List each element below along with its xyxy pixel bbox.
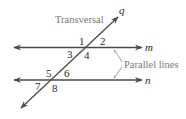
angle-label-2: 2 xyxy=(100,35,106,47)
line-label-m: m xyxy=(145,41,153,53)
transversal-line-q xyxy=(21,17,118,108)
transversal-caption: Transversal xyxy=(55,14,104,25)
line-label-q: q xyxy=(119,4,125,16)
angle-label-1: 1 xyxy=(79,35,85,47)
pointer-to-m xyxy=(114,50,122,62)
angle-label-6: 6 xyxy=(64,67,70,79)
angle-label-7: 7 xyxy=(35,80,41,92)
line-label-n: n xyxy=(145,74,151,86)
angle-label-4: 4 xyxy=(84,49,90,61)
angle-label-3: 3 xyxy=(67,48,73,60)
parallel-lines-caption: Parallel lines xyxy=(124,59,179,70)
angle-label-8: 8 xyxy=(52,82,58,94)
transversal-diagram: Transversal Parallel lines q m n 1 2 3 4… xyxy=(0,0,186,119)
pointer-to-n xyxy=(114,67,122,78)
angle-label-5: 5 xyxy=(46,67,52,79)
